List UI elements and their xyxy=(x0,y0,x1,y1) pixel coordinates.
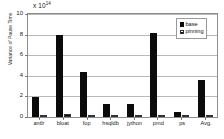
bar-pinning xyxy=(111,115,118,117)
bar-base xyxy=(56,35,63,117)
bar-pinning xyxy=(158,115,165,117)
bar-group xyxy=(28,14,52,117)
legend-swatch-pinning-icon xyxy=(180,30,185,35)
x-axis-tick-label: fop xyxy=(75,120,99,126)
bar-pinning xyxy=(182,115,189,117)
bar-group xyxy=(99,14,123,117)
bar-group xyxy=(123,14,147,117)
bar-base xyxy=(198,80,205,117)
bar-pinning xyxy=(64,114,71,117)
y-axis-tick-label: 6 xyxy=(5,51,23,57)
x-axis-labels: antlrbloatfophsqldbjythonpmdpsAvg. xyxy=(27,120,218,126)
x-axis-tick-label: antlr xyxy=(27,120,51,126)
bar-pinning xyxy=(206,115,213,117)
bar-pinning xyxy=(135,115,142,117)
bar-base xyxy=(150,33,157,117)
y-axis-tick-label: 10 xyxy=(5,10,23,16)
bar-base xyxy=(174,112,181,117)
bar-group xyxy=(52,14,76,117)
legend-item-pinning: pinning xyxy=(180,28,204,35)
x-axis-tick-label: bloat xyxy=(51,120,75,126)
bar-base xyxy=(32,97,39,117)
legend: base pinning xyxy=(176,18,207,39)
x-axis-tick-label: jython xyxy=(123,120,147,126)
bar-chart: x 1014 Variance of Pause Time 0246810 an… xyxy=(0,0,224,139)
y-axis-tick-label: 4 xyxy=(5,72,23,78)
y-axis-tick-label: 8 xyxy=(5,31,23,37)
legend-label-pinning: pinning xyxy=(186,28,204,35)
bar-base xyxy=(103,104,110,117)
bar-pinning xyxy=(88,115,95,117)
legend-item-base: base xyxy=(180,21,204,28)
y-axis-tick-mark xyxy=(25,117,28,118)
x-axis-tick-label: ps xyxy=(170,120,194,126)
legend-label-base: base xyxy=(186,21,198,28)
bar-group xyxy=(75,14,99,117)
bar-base xyxy=(127,104,134,117)
axis-exponent-mantissa: x 10 xyxy=(33,2,46,9)
legend-swatch-base-icon xyxy=(180,22,185,27)
x-axis-tick-label: hsqldb xyxy=(99,120,123,126)
y-axis-tick-label: 2 xyxy=(5,92,23,98)
bar-base xyxy=(80,72,87,117)
axis-exponent-label: x 1014 xyxy=(33,1,51,9)
bar-pinning xyxy=(40,115,47,117)
x-axis-tick-label: Avg. xyxy=(194,120,218,126)
axis-exponent-power: 14 xyxy=(46,1,51,6)
y-axis-tick-label: 0 xyxy=(5,113,23,119)
x-axis-tick-label: pmd xyxy=(146,120,170,126)
bar-group xyxy=(146,14,170,117)
